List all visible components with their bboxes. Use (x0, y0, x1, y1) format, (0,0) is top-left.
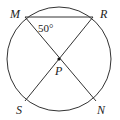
angle-label: 50° (38, 22, 53, 34)
label-m: M (9, 7, 21, 21)
label-p: P (54, 64, 63, 78)
label-n: N (96, 103, 106, 117)
point-p-dot (57, 57, 60, 60)
label-r: R (99, 7, 108, 21)
geometry-diagram: M R S N P 50° (0, 0, 120, 120)
label-s: S (16, 103, 22, 117)
